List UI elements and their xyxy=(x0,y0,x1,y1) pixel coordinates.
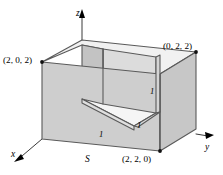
surface-label-S: S xyxy=(85,155,90,165)
x-axis-label: x xyxy=(11,150,15,160)
vertex-label-202: (2, 0, 2) xyxy=(3,56,32,65)
dim-front-right: 1 xyxy=(137,121,141,130)
dim-front-left: 1 xyxy=(99,130,103,139)
solid-region-figure: z y x (2, 0, 2) (0, 2, 2) (2, 2, 0) S 1 … xyxy=(0,0,223,175)
dim-right-vertical: 1 xyxy=(150,87,154,96)
y-axis-label: y xyxy=(205,143,209,153)
vertex-dot-022 xyxy=(194,50,198,54)
vertex-label-220: (2, 2, 0) xyxy=(122,155,151,164)
z-axis-label: z xyxy=(76,9,80,19)
vertex-dot-220 xyxy=(158,149,162,153)
figure-canvas xyxy=(0,0,223,175)
vertex-label-022: (0, 2, 2) xyxy=(163,42,192,51)
vertex-dot-202 xyxy=(40,60,44,64)
notch-right-ledge xyxy=(156,55,160,113)
solid-body-final xyxy=(0,0,223,175)
